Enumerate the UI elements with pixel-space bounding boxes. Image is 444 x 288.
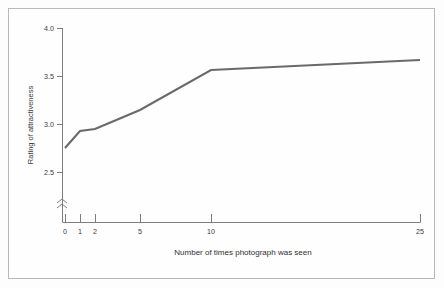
y-tick-label-3.0: 3.0 <box>44 120 54 129</box>
y-tick-label-4.0: 4.0 <box>44 24 54 33</box>
y-tick-label-2.5: 2.5 <box>44 168 54 177</box>
x-axis-title: Number of times photograph was seen <box>174 248 311 257</box>
chart-plot-area: 4.0 3.5 3.0 2.5 0 1 2 5 10 25 Number of … <box>0 0 444 288</box>
x-tick-label-1: 1 <box>78 227 82 236</box>
x-tick-label-5: 5 <box>138 227 142 236</box>
y-axis-title: Rating of attractiveness <box>26 86 35 165</box>
data-series-line <box>65 60 420 148</box>
x-tick-label-0: 0 <box>63 227 67 236</box>
x-tick-label-25: 25 <box>416 227 424 236</box>
y-axis-ticks <box>57 29 63 173</box>
x-tick-label-2: 2 <box>93 227 97 236</box>
chart-figure: 4.0 3.5 3.0 2.5 0 1 2 5 10 25 Number of … <box>0 0 444 288</box>
x-axis-ticks <box>66 214 421 223</box>
y-tick-label-3.5: 3.5 <box>44 72 54 81</box>
x-tick-label-10: 10 <box>207 227 215 236</box>
